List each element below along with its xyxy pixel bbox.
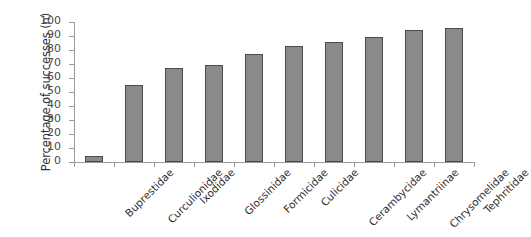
y-axis-tick: 30 (69, 120, 74, 121)
y-axis-tick-label: 10 (31, 140, 61, 153)
plot-area: 1009080706050403020100 (74, 22, 474, 162)
y-axis-tick: 10 (69, 148, 74, 149)
y-axis-tick: 20 (69, 134, 74, 135)
bar (285, 46, 303, 162)
bar (245, 54, 263, 162)
y-axis-tick-label: 0 (31, 154, 61, 167)
bar (205, 65, 223, 162)
y-axis-tick: 90 (69, 36, 74, 37)
y-axis-tick-label: 50 (31, 84, 61, 97)
bar (325, 42, 343, 162)
x-axis-label: Cerambycidae (366, 166, 428, 228)
bar (365, 37, 383, 162)
y-axis-tick-label: 100 (31, 14, 61, 27)
y-axis-tick: 100 (69, 22, 74, 23)
x-axis-labels: BuprestidaeCurculionidaeIxodidaeGlossini… (74, 166, 488, 237)
y-axis-tick: 70 (69, 64, 74, 65)
y-axis-tick: 60 (69, 78, 74, 79)
y-axis-tick-label: 60 (31, 70, 61, 83)
y-axis-tick-label: 20 (31, 126, 61, 139)
y-axis-tick-label: 90 (31, 28, 61, 41)
bar (85, 156, 103, 162)
y-axis-tick-label: 70 (31, 56, 61, 69)
bar (405, 30, 423, 162)
y-axis-tick-label: 80 (31, 42, 61, 55)
x-axis-label: Buprestidae (122, 166, 175, 219)
y-axis-tick-label: 30 (31, 112, 61, 125)
bar (445, 28, 463, 162)
y-axis-tick: 50 (69, 92, 74, 93)
y-axis-tick: 80 (69, 50, 74, 51)
bar (125, 85, 143, 162)
y-axis-line (74, 22, 75, 162)
y-axis-tick: 40 (69, 106, 74, 107)
y-axis-tick-label: 40 (31, 98, 61, 111)
bar (165, 68, 183, 162)
